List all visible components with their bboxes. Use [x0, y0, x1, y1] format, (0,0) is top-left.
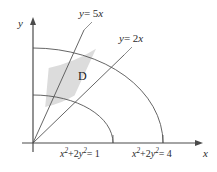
inner-ellipse-arc	[33, 95, 113, 143]
line-5x-eq: = 5	[84, 7, 98, 19]
line-5x-var: x	[98, 7, 103, 19]
x-axis-label: x	[203, 148, 208, 159]
x-axis-arrowhead	[195, 140, 203, 146]
inner-eq-plus: +2	[68, 148, 79, 159]
outer-eq-plus: +2	[140, 148, 151, 159]
inner-eq-rhs: = 1	[87, 148, 100, 159]
line-label-y-equals-5x: y= 5x	[79, 8, 103, 19]
leader-line-2x	[124, 47, 132, 55]
line-label-y-equals-2x: y= 2x	[119, 33, 143, 44]
ellipse-region-figure: y x D y= 5x y= 2x x2+2y2= 1 x2+2y2= 4	[0, 0, 217, 172]
line-2x-var: x	[138, 32, 143, 44]
figure-canvas	[0, 0, 217, 172]
outer-ellipse-equation-label: x2+2y2= 4	[132, 148, 172, 159]
outer-eq-rhs: = 4	[159, 148, 172, 159]
region-d-label: D	[78, 70, 87, 82]
leader-line-5x	[84, 22, 92, 30]
inner-ellipse-equation-label: x2+2y2= 1	[60, 148, 100, 159]
y-axis-arrowhead	[30, 17, 36, 25]
line-2x-eq: = 2	[124, 32, 138, 44]
y-axis-label: y	[18, 18, 23, 29]
